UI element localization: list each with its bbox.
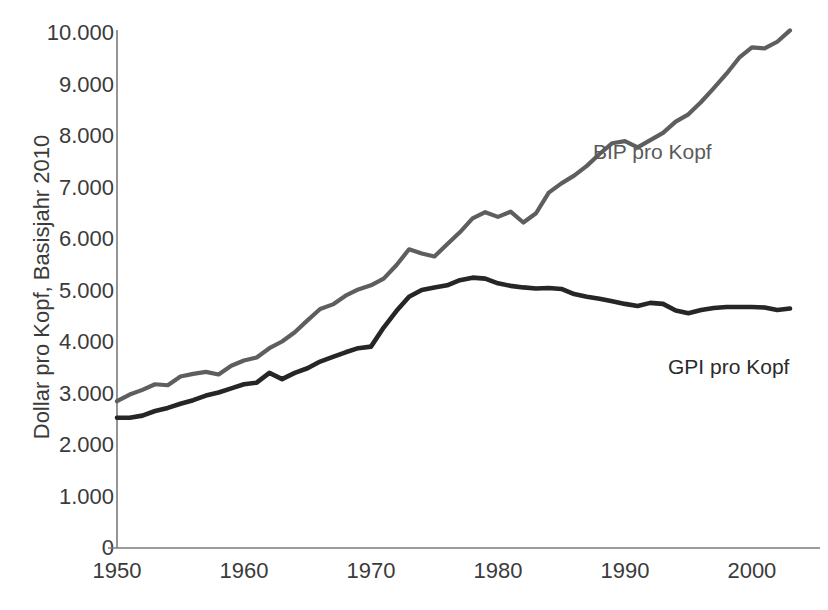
chart-container: Dollar pro Kopf, Basisjahr 2010 10.0009.… [0, 0, 828, 610]
chart-plot-area [0, 0, 828, 610]
series-line-gpi-pro-kopf [117, 278, 790, 418]
series-label-bip-pro-kopf: BIP pro Kopf [593, 140, 712, 164]
series-label-gpi-pro-kopf: GPI pro Kopf [668, 355, 789, 379]
series-line-bip-pro-kopf [117, 30, 790, 401]
